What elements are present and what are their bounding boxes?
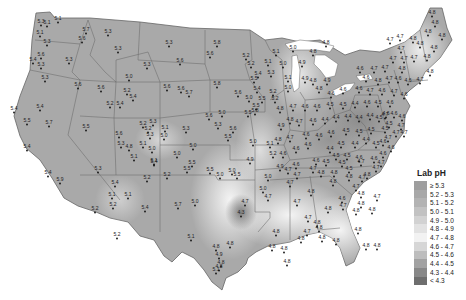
station-dot-icon [118, 137, 120, 139]
station-dot-icon [429, 75, 431, 77]
station-ph-label: 4.7 [382, 64, 389, 70]
station-dot-icon [39, 110, 41, 112]
station-dot-icon [335, 244, 337, 246]
station-dot-icon [377, 106, 379, 108]
station-dot-icon [240, 216, 242, 218]
station-ph-label: 4.6 [399, 113, 406, 119]
station-ph-label: 4.7 [242, 198, 249, 204]
station-ph-label: 4.5 [346, 165, 353, 171]
station-ph-label: 5.6 [178, 85, 185, 91]
station-ph-label: 4.8 [227, 240, 234, 246]
station-dot-icon [107, 35, 109, 37]
station-dot-icon [274, 102, 276, 104]
station-ph-label: 5.3 [66, 56, 73, 62]
station-ph-label: 4.5 [327, 101, 334, 107]
station-ph-label: 5.2 [164, 171, 171, 177]
station-dot-icon [321, 241, 323, 243]
station-dot-icon [287, 173, 289, 175]
station-dot-icon [127, 198, 129, 200]
station-ph-label: 5.3 [183, 125, 190, 131]
station-dot-icon [117, 52, 119, 54]
legend-swatch [414, 198, 427, 207]
station-dot-icon [312, 55, 314, 57]
station-ph-label: 4.8 [427, 68, 434, 74]
station-ph-label: 4.6 [293, 161, 300, 167]
station-ph-label: 4.7 [393, 129, 400, 135]
station-ph-label: 4.4 [363, 136, 370, 142]
station-ph-label: 5.6 [207, 50, 214, 56]
station-dot-icon [384, 132, 386, 134]
station-ph-label: 4.6 [364, 99, 371, 105]
station-ph-label: 5.1 [162, 124, 169, 130]
station-ph-label: 4.7 [310, 165, 317, 171]
station-ph-label: 4.8 [277, 105, 284, 111]
station-ph-label: 4.8 [308, 188, 315, 194]
station-marker: 4.8 [298, 235, 305, 243]
station-dot-icon [267, 200, 269, 202]
station-dot-icon [279, 170, 281, 172]
station-ph-label: 4.8 [346, 173, 353, 179]
station-dot-icon [326, 84, 328, 86]
station-dot-icon [354, 107, 356, 109]
station-ph-label: 5.8 [214, 39, 221, 45]
station-ph-label: 4.7 [401, 129, 408, 135]
station-ph-label: 4.8 [432, 19, 439, 25]
station-dot-icon [286, 265, 288, 267]
station-ph-label: 5.0 [217, 171, 224, 177]
station-dot-icon [180, 92, 182, 94]
station-dot-icon [100, 91, 102, 93]
station-ph-label: 5.4 [117, 100, 124, 106]
station-ph-label: 5.1 [273, 48, 280, 54]
station-dot-icon [341, 166, 343, 168]
station-ph-label: 5.0 [265, 173, 272, 179]
station-dot-icon [378, 121, 380, 123]
station-ph-label: 4.8 [325, 205, 332, 211]
legend-item: 4.6 - 4.7 [414, 242, 466, 251]
station-ph-label: 4.7 [374, 193, 381, 199]
station-dot-icon [68, 63, 70, 65]
station-ph-label: 4.4 [352, 140, 359, 146]
station-dot-icon [384, 71, 386, 73]
station-dot-icon [255, 109, 257, 111]
station-dot-icon [120, 147, 122, 149]
station-dot-icon [399, 40, 401, 42]
station-ph-label: 4.7 [305, 214, 312, 220]
station-dot-icon [40, 58, 42, 60]
station-ph-label: 4.7 [417, 76, 424, 82]
station-dot-icon [248, 101, 250, 103]
legend-label: 4.9 - 5.0 [430, 217, 454, 224]
station-marker: 5.2 [114, 231, 121, 239]
station-dot-icon [401, 72, 403, 74]
station-dot-icon [312, 124, 314, 126]
station-ph-label: 4.6 [303, 131, 310, 137]
station-dot-icon [348, 180, 350, 182]
station-dot-icon [358, 92, 360, 94]
legend-item: 4.4 - 4.5 [414, 259, 466, 268]
station-ph-label: 5.0 [174, 150, 181, 156]
station-ph-label: 5.1 [131, 153, 138, 159]
station-dot-icon [342, 108, 344, 110]
station-dot-icon [301, 66, 303, 68]
station-marker: 4.8 [319, 234, 326, 242]
legend-item: 4.8 - 4.9 [414, 224, 466, 233]
station-ph-label: 4.8 [216, 263, 223, 269]
station-dot-icon [366, 106, 368, 108]
station-ph-label: 4.8 [126, 143, 133, 149]
station-dot-icon [295, 152, 297, 154]
station-dot-icon [275, 55, 277, 57]
station-dot-icon [277, 143, 279, 145]
station-dot-icon [419, 47, 421, 49]
station-dot-icon [292, 110, 294, 112]
station-ph-label: 4.7 [340, 202, 347, 208]
station-ph-label: 4.7 [296, 118, 303, 124]
station-dot-icon [361, 181, 363, 183]
legend-item: 5.0 - 5.1 [414, 207, 466, 216]
station-ph-label: 4.6 [316, 132, 323, 138]
station-ph-label: 4.6 [357, 65, 364, 71]
station-ph-label: 4.7 [382, 111, 389, 117]
station-ph-label: 5.0 [192, 198, 199, 204]
station-dot-icon [295, 168, 297, 170]
station-dot-icon [275, 235, 277, 237]
station-ph-label: 5.3 [105, 28, 112, 34]
station-ph-label: 5.3 [44, 38, 51, 44]
